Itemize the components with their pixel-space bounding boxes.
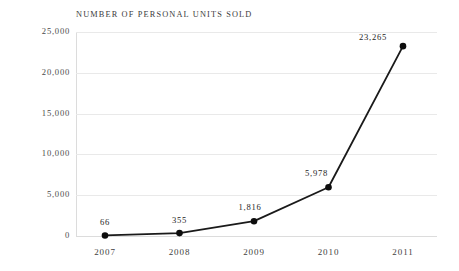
- x-axis-tick-label: 2011: [392, 247, 413, 257]
- gridline: [76, 195, 437, 196]
- x-axis-tick-label: 2007: [94, 247, 116, 257]
- data-point-label: 66: [100, 217, 110, 227]
- data-point-label: 23,265: [359, 32, 387, 42]
- data-point-label: 1,816: [238, 202, 261, 212]
- x-axis-tick-label: 2010: [318, 247, 340, 257]
- x-axis-tick-label: 2009: [243, 247, 265, 257]
- y-axis-tick-label: 5,000: [8, 189, 70, 199]
- line-chart: NUMBER OF PERSONAL UNITS SOLD 25,00020,0…: [0, 0, 459, 271]
- chart-title: NUMBER OF PERSONAL UNITS SOLD: [76, 10, 252, 19]
- y-axis-tick-label: 20,000: [8, 67, 70, 77]
- data-point-label: 355: [172, 215, 187, 225]
- gridline: [76, 73, 437, 74]
- y-axis-tick-label: 0: [8, 230, 70, 240]
- y-axis-tick-label: 15,000: [8, 108, 70, 118]
- x-axis-tick-labels: 20072008200920102011: [0, 247, 459, 263]
- gridline: [76, 114, 437, 115]
- y-axis-tick-label: 25,000: [8, 26, 70, 36]
- y-axis-tick-label: 10,000: [8, 148, 70, 158]
- gridline: [76, 154, 437, 155]
- gridline: [76, 236, 437, 237]
- data-point-label: 5,978: [305, 168, 328, 178]
- y-axis-tick-labels: 25,00020,00015,00010,0005,0000: [6, 32, 70, 236]
- x-axis-tick-label: 2008: [169, 247, 191, 257]
